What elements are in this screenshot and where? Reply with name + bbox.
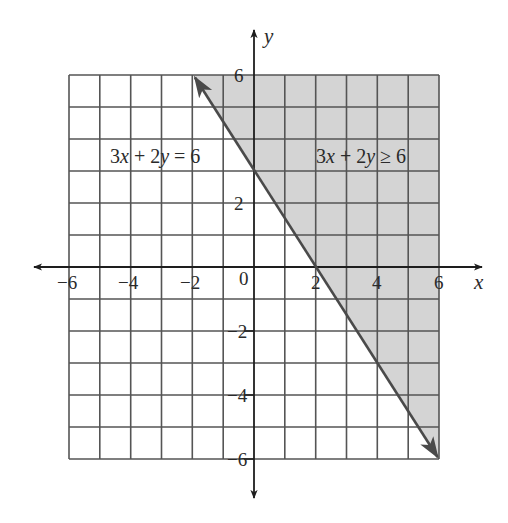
y-tick-label: −6 <box>227 449 247 470</box>
relation: ≥ 6 <box>375 145 406 167</box>
origin-label: 0 <box>239 268 249 289</box>
y-axis-label: y <box>262 24 274 48</box>
y-tick-label: 6 <box>234 65 244 86</box>
x-tick-label: 6 <box>434 272 444 293</box>
x-tick-label: −6 <box>57 272 77 293</box>
y-tick-label: −2 <box>227 321 247 342</box>
operator: + 2 <box>129 145 160 167</box>
coef-x: 3 <box>316 145 326 167</box>
y-tick-label: 2 <box>234 193 244 214</box>
relation: = 6 <box>169 145 200 167</box>
y-tick-label: −4 <box>227 385 248 406</box>
var-x: x <box>119 145 129 167</box>
x-tick-label: −2 <box>180 272 200 293</box>
operator: + 2 <box>335 145 366 167</box>
boundary-equation-label: 3x + 2y = 6 <box>110 145 200 168</box>
region-inequality-label: 3x + 2y ≥ 6 <box>316 145 406 168</box>
x-tick-label: −4 <box>118 272 139 293</box>
coef-x: 3 <box>110 145 120 167</box>
inequality-graph: x y −6 −4 −2 0 2 4 6 6 2 −2 −4 −6 3x + 2… <box>0 0 508 523</box>
var-x: x <box>325 145 335 167</box>
x-axis-label: x <box>473 270 484 294</box>
var-y: y <box>158 145 169 168</box>
x-tick-label: 2 <box>311 272 321 293</box>
var-y: y <box>364 145 375 168</box>
x-tick-label: 4 <box>372 272 382 293</box>
